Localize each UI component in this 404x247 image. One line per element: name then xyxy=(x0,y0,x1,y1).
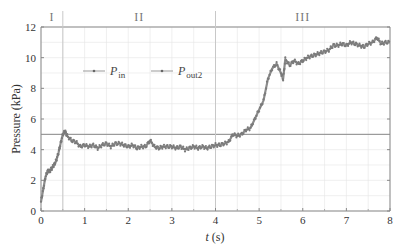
data-point xyxy=(220,145,222,147)
data-point xyxy=(200,147,202,149)
data-point xyxy=(210,147,212,149)
y-tick-label: 6 xyxy=(31,113,37,125)
data-point xyxy=(309,57,311,59)
data-point xyxy=(307,54,309,56)
data-point xyxy=(276,64,278,66)
data-point xyxy=(378,37,380,39)
data-point xyxy=(343,42,345,44)
data-point xyxy=(65,131,67,133)
data-point xyxy=(184,150,186,152)
data-point xyxy=(153,144,155,146)
data-point xyxy=(383,44,385,46)
y-axis-title: Pressure (kPa) xyxy=(9,84,23,154)
data-point xyxy=(283,68,285,70)
data-point xyxy=(318,54,320,56)
data-point xyxy=(151,142,153,144)
data-point xyxy=(150,139,152,141)
data-point xyxy=(61,137,63,139)
data-point xyxy=(285,59,287,61)
data-point xyxy=(113,145,115,147)
data-point xyxy=(92,143,94,145)
data-point xyxy=(197,149,199,151)
x-tick-label: 0 xyxy=(38,214,44,226)
data-point xyxy=(352,41,354,43)
legend-marker-P_out2 xyxy=(161,70,164,73)
data-point xyxy=(186,146,188,148)
data-point xyxy=(367,44,369,46)
data-point xyxy=(262,103,264,105)
data-point xyxy=(42,190,44,192)
data-point xyxy=(333,43,335,45)
data-point xyxy=(229,140,231,142)
reference-lines xyxy=(41,11,390,211)
data-point xyxy=(111,143,113,145)
data-point xyxy=(202,145,204,147)
data-point xyxy=(67,136,69,138)
data-point xyxy=(370,44,372,46)
data-point xyxy=(53,166,55,168)
region-label-I: I xyxy=(49,10,54,24)
data-point xyxy=(70,137,72,139)
data-point xyxy=(136,148,138,150)
data-point xyxy=(362,44,364,46)
data-point xyxy=(129,147,131,149)
data-point xyxy=(97,149,99,151)
data-point xyxy=(102,142,104,144)
data-point xyxy=(199,145,201,147)
data-point xyxy=(282,79,284,81)
data-point xyxy=(259,107,261,109)
data-point xyxy=(146,146,148,148)
data-point xyxy=(165,147,167,149)
y-tick-label: 12 xyxy=(25,21,36,33)
x-axis-title: t (s) xyxy=(205,230,224,244)
data-point xyxy=(161,148,163,150)
data-point xyxy=(347,45,349,47)
data-point xyxy=(378,40,380,42)
y-tick-label: 8 xyxy=(31,82,37,94)
data-point xyxy=(265,88,267,90)
data-point xyxy=(258,111,260,113)
data-point xyxy=(51,169,53,171)
data-point xyxy=(59,148,61,150)
data-point xyxy=(242,133,244,135)
data-point xyxy=(386,43,388,45)
data-point xyxy=(144,144,146,146)
data-point xyxy=(45,175,47,177)
data-point xyxy=(41,195,43,197)
data-point xyxy=(123,146,125,148)
data-point xyxy=(252,123,254,125)
data-point xyxy=(283,73,285,75)
data-point xyxy=(223,143,225,145)
data-point xyxy=(62,134,64,136)
legend-subscript: in xyxy=(118,70,126,80)
data-point xyxy=(163,144,165,146)
data-point xyxy=(344,45,346,47)
data-point xyxy=(255,115,257,117)
pressure-chart: 012345678024681012 IIIIII PinPout2 Press… xyxy=(0,0,404,247)
y-tick-label: 0 xyxy=(31,205,37,217)
data-point xyxy=(262,98,264,100)
data-point xyxy=(59,145,61,147)
data-point xyxy=(269,74,271,76)
data-point xyxy=(239,136,241,138)
y-tick-label: 10 xyxy=(25,52,37,64)
data-point xyxy=(126,146,128,148)
data-point xyxy=(208,145,210,147)
data-point xyxy=(189,146,191,148)
data-point xyxy=(173,144,175,146)
y-tick-label: 2 xyxy=(31,174,37,186)
data-point xyxy=(284,56,286,58)
x-tick-label: 8 xyxy=(387,214,393,226)
legend-marker-P_in xyxy=(93,70,96,73)
data-point xyxy=(155,148,157,150)
data-point xyxy=(360,47,362,49)
data-point xyxy=(218,142,220,144)
data-point xyxy=(43,187,45,189)
data-point xyxy=(388,40,390,42)
data-point xyxy=(77,143,79,145)
data-point xyxy=(108,143,110,145)
data-point xyxy=(174,149,176,151)
x-tick-label: 6 xyxy=(300,214,306,226)
data-point xyxy=(266,81,268,83)
y-tick-label: 4 xyxy=(31,144,37,156)
